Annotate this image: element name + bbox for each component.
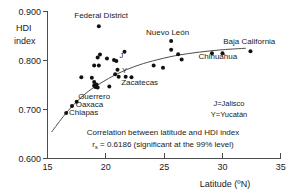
data-point bbox=[79, 75, 83, 79]
trend-curve bbox=[52, 48, 246, 132]
point-label-zacatecas: Zacatecas bbox=[121, 78, 158, 87]
y-tick-label-0: 0.600 bbox=[18, 154, 41, 164]
data-point bbox=[169, 48, 173, 52]
data-point bbox=[107, 84, 111, 88]
y-tick-marks bbox=[43, 12, 48, 159]
data-point bbox=[169, 39, 173, 43]
data-point bbox=[96, 85, 100, 89]
data-point bbox=[90, 76, 94, 80]
data-point bbox=[161, 66, 165, 70]
x-tick-labels: 15 20 25 30 35 bbox=[42, 162, 285, 172]
y-tick-label-2: 0.800 bbox=[18, 56, 41, 66]
data-point bbox=[64, 111, 68, 115]
data-point bbox=[97, 24, 101, 28]
correlation-annotation: Correlation between latitude and HDI ind… bbox=[87, 128, 240, 150]
point-label-chihuahua: Chihuahua bbox=[198, 52, 237, 61]
x-tick-label-4: 35 bbox=[276, 162, 286, 172]
x-tick-label-1: 20 bbox=[101, 162, 111, 172]
annotation-r-rest: = 0.6186 (significant at the 99% level) bbox=[98, 140, 234, 149]
point-label-chiapas: Chiapas bbox=[69, 108, 98, 117]
data-point bbox=[113, 72, 117, 76]
marker-label-jalisco: J bbox=[120, 51, 124, 60]
y-tick-label-1: 0.700 bbox=[18, 105, 41, 115]
data-point bbox=[97, 63, 101, 67]
y-tick-label-3: 0.900 bbox=[18, 7, 41, 17]
x-axis-title: Latitude (ºN) bbox=[200, 179, 250, 189]
annotation-line-1: Correlation between latitude and HDI ind… bbox=[87, 128, 240, 137]
hdi-latitude-scatter-chart: 0.900 0.800 0.700 0.600 HDI index 15 20 … bbox=[0, 0, 291, 195]
legend-entry-yucatan: Y=Yucatán bbox=[211, 110, 248, 119]
data-point bbox=[117, 75, 121, 79]
x-tick-marks bbox=[48, 153, 281, 159]
data-point bbox=[176, 52, 180, 56]
x-tick-label-2: 25 bbox=[159, 162, 169, 172]
data-point bbox=[105, 57, 109, 61]
inline-series-markers: J Y bbox=[120, 51, 128, 75]
data-point bbox=[152, 63, 156, 67]
x-tick-label-0: 15 bbox=[42, 162, 52, 172]
y-axis-title-line2: index bbox=[14, 36, 36, 46]
legend: J=Jalisco Y=Yucatán bbox=[211, 99, 248, 119]
data-point bbox=[92, 63, 96, 67]
legend-entry-jalisco: J=Jalisco bbox=[213, 99, 244, 108]
x-tick-label-3: 30 bbox=[217, 162, 227, 172]
point-label-baja-california: Baja California bbox=[223, 37, 276, 46]
marker-label-yucatan: Y bbox=[122, 66, 127, 75]
data-point bbox=[114, 59, 118, 63]
y-axis-title-line1: HDI bbox=[16, 23, 32, 33]
annotation-line-2: rs = 0.6186 (significant at the 99% leve… bbox=[92, 140, 234, 150]
data-point bbox=[115, 68, 119, 72]
data-point bbox=[180, 58, 184, 62]
y-axis-title: HDI index bbox=[14, 23, 36, 46]
point-label-federal-district: Federal District bbox=[74, 11, 129, 20]
data-point bbox=[248, 49, 252, 53]
data-point bbox=[98, 53, 102, 57]
point-label-nuevo-león: Nuevo León bbox=[146, 28, 189, 37]
chart-canvas: 0.900 0.800 0.700 0.600 HDI index 15 20 … bbox=[0, 0, 291, 195]
